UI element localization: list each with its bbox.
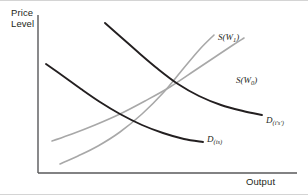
supply-w1-subscript: 1 — [233, 36, 236, 43]
curve-label-demand-low: D(is) — [207, 134, 222, 144]
supply-w1-arg: W — [226, 32, 234, 42]
supply-w0-arg: W — [244, 75, 252, 85]
supply-w0-subscript: 0 — [251, 79, 254, 86]
y-axis-label: Price Level — [11, 8, 34, 29]
curve-label-supply-w0: S(W0) — [236, 75, 257, 85]
demand-high-subscript: (i's') — [273, 119, 284, 126]
curves-group — [46, 23, 262, 164]
x-axis-label: Output — [246, 177, 275, 188]
demand-low-subscript: (is) — [214, 138, 223, 145]
curve-aggregate-demand-dis — [46, 64, 203, 142]
curve-label-demand-high: D(i's') — [266, 115, 284, 125]
curve-aggregate-supply-sw1 — [60, 35, 214, 164]
figure-panel: Price Level Output S(W1) S(W0) D(i's') D… — [0, 0, 308, 195]
curve-label-supply-w1: S(W1) — [218, 32, 239, 42]
supply-w1-symbol: S — [218, 32, 223, 42]
supply-w0-symbol: S — [236, 75, 241, 85]
chart-canvas — [0, 1, 308, 195]
demand-low-symbol: D — [207, 134, 214, 144]
demand-high-symbol: D — [266, 115, 273, 125]
axes-group — [38, 15, 297, 173]
